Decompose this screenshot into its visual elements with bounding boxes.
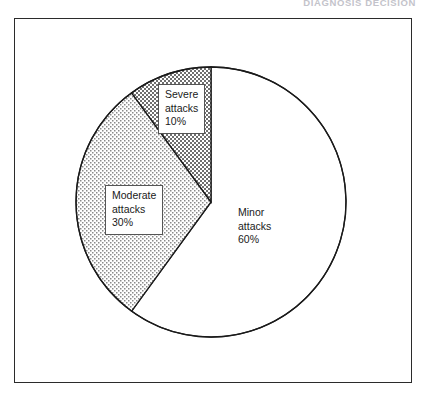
chart-canvas: DIAGNOSIS DECISION Severe a bbox=[0, 0, 432, 410]
pie-label-moderate-value: 30% bbox=[112, 216, 156, 230]
pie-label-moderate-name: Moderate bbox=[112, 189, 156, 203]
pie-label-minor-name: Minor bbox=[238, 206, 271, 220]
pie-label-minor-name2: attacks bbox=[238, 220, 271, 234]
pie-label-minor-value: 60% bbox=[238, 233, 271, 247]
pie-label-severe-value: 10% bbox=[165, 115, 198, 129]
pie-label-severe-name: Severe bbox=[165, 88, 198, 102]
pie-label-moderate-name2: attacks bbox=[112, 203, 156, 217]
pie-label-minor-attacks: Minor attacks 60% bbox=[238, 206, 271, 247]
page-running-header: DIAGNOSIS DECISION bbox=[303, 0, 416, 8]
pie-label-severe-attacks: Severe attacks 10% bbox=[158, 84, 205, 134]
figure-frame bbox=[14, 18, 412, 383]
pie-label-moderate-attacks: Moderate attacks 30% bbox=[105, 185, 163, 235]
pie-label-severe-name2: attacks bbox=[165, 102, 198, 116]
